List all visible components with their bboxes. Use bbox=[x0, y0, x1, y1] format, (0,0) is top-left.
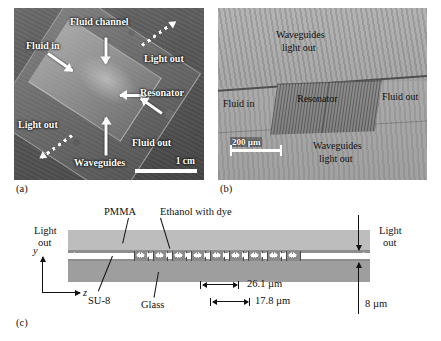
panel-b-label-waveguides-top-line2: light out bbox=[282, 43, 316, 54]
dimension-arrow-core-bottom bbox=[358, 263, 359, 314]
dimension-arrow-core-top bbox=[358, 215, 359, 250]
panel-b-caption: (b) bbox=[220, 183, 232, 194]
dimension-cap-period-left bbox=[200, 281, 201, 289]
panel-b-label-fluid-out: Fluid out bbox=[382, 92, 418, 103]
panel-b-label-waveguides-top-line1: Waveguides bbox=[276, 30, 325, 41]
panel-a-scale-bar-label: 1 cm bbox=[176, 157, 195, 167]
panel-c-schematic: PMMA Ethanol with dye SU-8 Glass Light o… bbox=[0, 196, 441, 341]
panel-b-label-resonator: Resonator bbox=[297, 94, 338, 105]
axis-z-label: z bbox=[83, 287, 87, 298]
panel-b-resonator-block bbox=[270, 80, 382, 135]
panel-b-scale-bar-label: 200 µm bbox=[230, 137, 262, 147]
panel-a-label-fluid-channel: Fluid channel bbox=[70, 17, 129, 28]
panel-a-label-waveguides: Waveguides bbox=[74, 158, 125, 169]
panel-a-photograph: Fluid in Fluid channel Light out Resonat… bbox=[14, 8, 204, 180]
panel-b-scale-bar bbox=[230, 149, 282, 152]
figure-root: Fluid in Fluid channel Light out Resonat… bbox=[0, 0, 441, 341]
panel-c-label-light-out-right-line1: Light bbox=[379, 225, 402, 236]
dimension-cap-segment-right bbox=[249, 298, 250, 306]
resonator-segment-arrow bbox=[175, 254, 182, 257]
resonator-segment-arrow bbox=[213, 254, 220, 257]
panel-b-label-fluid-in: Fluid in bbox=[223, 99, 254, 110]
axis-y-arrow bbox=[42, 257, 43, 293]
left-light-arrow bbox=[71, 254, 131, 257]
panel-b-label-waveguides-bottom-line1: Waveguides bbox=[313, 141, 362, 152]
panel-b-micrograph: Waveguides light out Fluid in Resonator … bbox=[218, 8, 427, 180]
panel-c-label-light-out-left-line1: Light bbox=[34, 225, 57, 236]
panel-a-label-resonator: Resonator bbox=[140, 88, 184, 99]
dimension-cap-period-right bbox=[238, 281, 239, 289]
dimension-label-period: 26.1 µm bbox=[247, 278, 282, 289]
glass-layer bbox=[68, 261, 370, 282]
panel-a-scale-bar bbox=[135, 169, 197, 173]
panel-c-label-su8: SU-8 bbox=[88, 295, 110, 306]
resonator-segment-arrow bbox=[251, 254, 258, 257]
dimension-label-core-height: 8 µm bbox=[365, 298, 387, 309]
resonator-segment-arrow bbox=[289, 254, 296, 257]
dimension-rule-segment bbox=[213, 301, 248, 302]
resonator-segment-arrow bbox=[137, 254, 144, 257]
dimension-rule-period bbox=[203, 284, 237, 285]
panel-c-caption: (c) bbox=[16, 317, 28, 328]
arrow-waveguides bbox=[105, 118, 108, 156]
panel-a-caption: (a) bbox=[16, 183, 28, 194]
dimension-label-segment: 17.8 µm bbox=[255, 295, 290, 306]
panel-a-label-light-out-bottom: Light out bbox=[18, 120, 58, 131]
arrow-fluid-channel bbox=[105, 38, 108, 64]
panel-a-label-light-out-top: Light out bbox=[144, 54, 184, 65]
axis-y-label: y bbox=[33, 245, 38, 256]
panel-a-label-fluid-out: Fluid out bbox=[132, 138, 171, 149]
dimension-cap-segment-left bbox=[210, 298, 211, 306]
resonator-segment-arrow bbox=[232, 254, 239, 257]
panel-c-label-glass: Glass bbox=[141, 299, 164, 310]
panel-c-label-pmma: PMMA bbox=[104, 206, 136, 217]
panel-a-label-fluid-in: Fluid in bbox=[26, 41, 60, 52]
panel-c-label-light-out-left-line2: out bbox=[38, 237, 51, 248]
panel-c-label-ethanol: Ethanol with dye bbox=[160, 206, 232, 217]
panel-b-label-waveguides-bottom-line2: light out bbox=[319, 154, 353, 165]
axis-z-arrow bbox=[42, 292, 80, 293]
device-cross-section bbox=[68, 230, 370, 282]
resonator-segment-arrow bbox=[194, 254, 201, 257]
right-light-arrow bbox=[307, 254, 367, 257]
resonator-segment-arrow bbox=[270, 254, 277, 257]
pmma-layer bbox=[68, 230, 370, 250]
resonator-segment-arrow bbox=[156, 254, 163, 257]
panel-c-label-light-out-right-line2: out bbox=[383, 237, 396, 248]
